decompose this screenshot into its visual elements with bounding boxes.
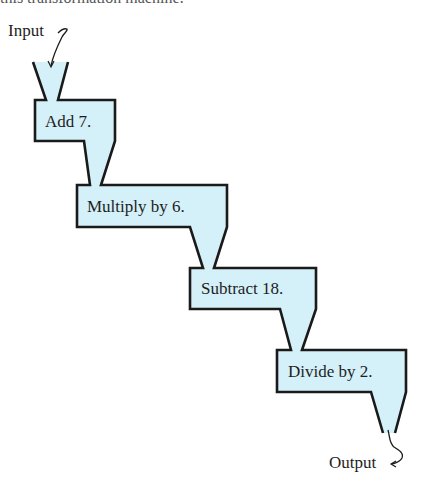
input-arrow-icon <box>48 29 67 67</box>
step-multiply-label: Multiply by 6. <box>87 198 185 215</box>
machine-diagram <box>0 0 422 481</box>
output-label: Output <box>329 454 376 471</box>
output-arrow-icon <box>388 430 402 467</box>
step-add-label: Add 7. <box>45 113 91 130</box>
step-subtract-label: Subtract 18. <box>201 280 283 297</box>
step-divide-label: Divide by 2. <box>288 363 373 380</box>
input-label: Input <box>8 22 44 39</box>
